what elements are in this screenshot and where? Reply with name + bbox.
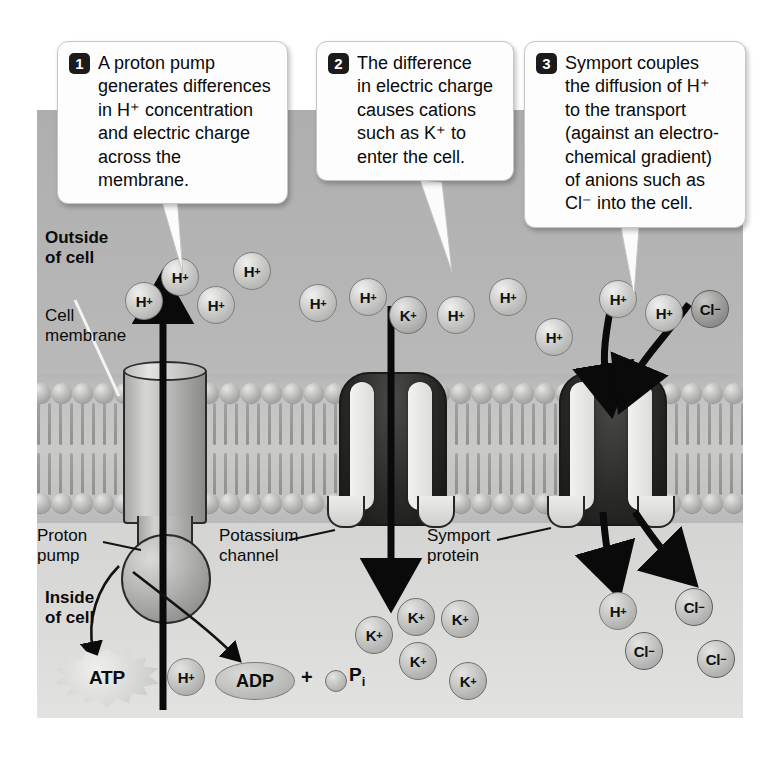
channel-foot-left (327, 496, 365, 528)
ion-h: H+ (161, 258, 199, 296)
phospholipid-head (703, 383, 723, 403)
lipid-tail (477, 453, 480, 495)
symport-lobe-right (628, 382, 652, 510)
ion-charge: + (254, 265, 260, 277)
lipid-tail (59, 453, 62, 495)
phospholipid-head (472, 383, 492, 403)
callout-3[interactable]: 3 Symport couples the diffusion of H⁺ to… (524, 41, 746, 228)
lipid-tail (301, 403, 304, 445)
phospholipid-head (535, 383, 555, 403)
phospholipid-head (514, 383, 534, 403)
callout-2-text: The difference in electric charge causes… (357, 52, 493, 169)
ion-k: K+ (449, 662, 487, 700)
symport-protein-structure (559, 372, 663, 522)
lipid-tail (697, 453, 700, 495)
lipid-tail (499, 403, 502, 445)
callout-1-row: 1 A proton pump generates differences in… (69, 52, 274, 192)
channel-lobe-right (408, 382, 432, 510)
lipid-tail (114, 403, 117, 445)
lipid-tail (730, 453, 733, 495)
lipid-tail (488, 453, 491, 495)
ion-cl: Cl− (675, 588, 713, 626)
label-symport-protein: Symport protein (427, 526, 490, 567)
ion-charge: + (462, 613, 468, 625)
ion-cl: Cl− (697, 640, 735, 678)
phospholipid-head (262, 493, 282, 513)
phospholipid-head (37, 383, 51, 403)
phospholipid-head (283, 493, 303, 513)
lipid-tail (301, 453, 304, 495)
callout-1-text: A proton pump generates differences in H… (98, 52, 274, 192)
lipid-tail (257, 453, 260, 495)
lipid-tail (246, 403, 249, 445)
lipid-tail (59, 403, 62, 445)
lipid-tail (488, 403, 491, 445)
pump-catalytic-head (121, 534, 211, 624)
lipid-tail (466, 453, 469, 495)
phospholipid-head (682, 383, 702, 403)
lipid-tail (719, 403, 722, 445)
ion-charge: + (418, 611, 424, 623)
phospholipid-head (220, 493, 240, 513)
lipid-tail (235, 403, 238, 445)
ion-charge: − (648, 645, 654, 657)
phospholipid-head (703, 493, 723, 513)
ion-charge: − (720, 653, 726, 665)
lipid-tail (532, 403, 535, 445)
phospholipid-head (304, 493, 324, 513)
lipid-tail (81, 403, 84, 445)
phospholipid-head (241, 493, 261, 513)
phospholipid-head (304, 383, 324, 403)
label-potassium-channel: Potassium channel (219, 526, 298, 567)
channel-lobe-left (350, 382, 374, 510)
lipid-tail (92, 403, 95, 445)
plus-sign: + (301, 666, 313, 689)
phosphate-dot (325, 670, 347, 692)
proton-pump-protein (123, 368, 203, 598)
ion-charge: + (218, 299, 224, 311)
lipid-tail (224, 403, 227, 445)
lipid-tail (686, 453, 689, 495)
lipid-tail (257, 403, 260, 445)
callout-1[interactable]: 1 A proton pump generates differences in… (57, 41, 288, 204)
lipid-tail (103, 453, 106, 495)
phospholipid-head (472, 493, 492, 513)
ion-charge: + (188, 671, 194, 683)
lipid-tail (510, 453, 513, 495)
lipid-tail (37, 403, 40, 445)
lipid-tail (268, 453, 271, 495)
symport-foot-left (547, 496, 585, 528)
ion-h: H+ (437, 296, 475, 334)
phospholipid-head (514, 493, 534, 513)
callout-2[interactable]: 2 The difference in electric charge caus… (316, 41, 514, 181)
lipid-tail (224, 453, 227, 495)
lipid-tail (686, 403, 689, 445)
ion-h: H+ (599, 592, 637, 630)
ion-h: H+ (599, 280, 637, 318)
ion-k: K+ (355, 616, 393, 654)
pi-subscript: i (362, 674, 366, 689)
phospholipid-head (682, 493, 702, 513)
ion-charge: + (666, 307, 672, 319)
phospholipid-head (283, 383, 303, 403)
phospholipid-head (52, 383, 72, 403)
ion-charge: − (698, 601, 704, 613)
ion-h: H+ (197, 286, 235, 324)
phospholipid-head (451, 383, 471, 403)
lipid-tail (48, 403, 51, 445)
ion-h: H+ (299, 284, 337, 322)
callout-1-badge: 1 (69, 53, 90, 74)
diagram-root: H+H+H+H+H+H+K+H+H+H+H+H+Cl− H+K+K+K+K+K+… (0, 0, 771, 765)
lipid-tail (70, 403, 73, 445)
symport-foot-right (637, 496, 675, 528)
ion-charge: + (370, 291, 376, 303)
phospholipid-head (52, 493, 72, 513)
lipid-tail (554, 453, 557, 495)
label-proton-pump: Proton pump (37, 526, 87, 567)
lipid-tail (730, 403, 733, 445)
lipid-tail (334, 453, 337, 495)
ion-h: H+ (349, 278, 387, 316)
phospholipid-head (94, 383, 114, 403)
phospholipid-head (73, 383, 93, 403)
symport-lobe-left (570, 382, 594, 510)
